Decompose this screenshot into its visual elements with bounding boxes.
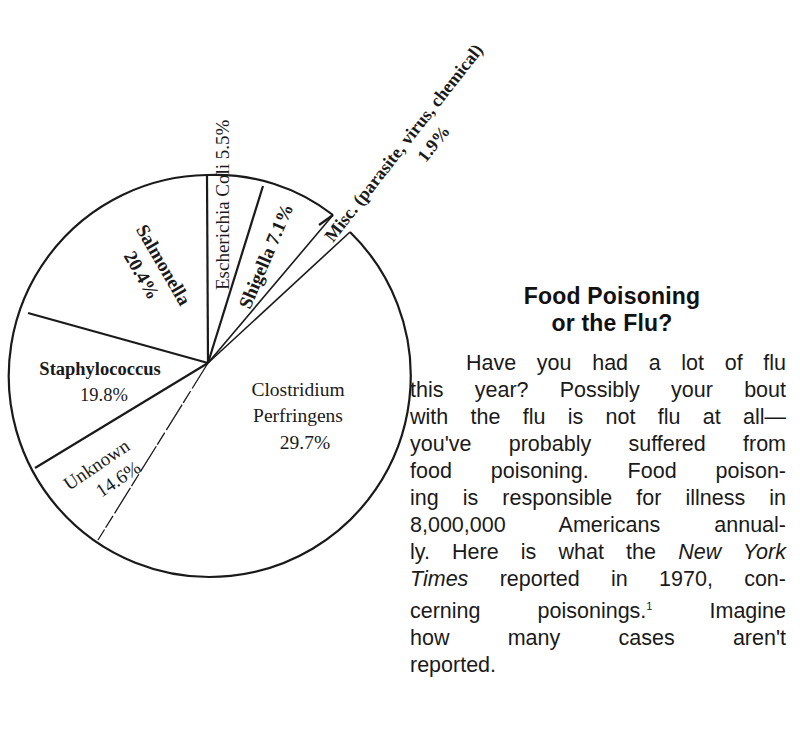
body-line: how many cases aren't [410,625,786,652]
headline-line-1: Food Poisoning [438,283,786,310]
body-line: 8,000,000 Americans annual- [410,512,786,539]
clostridium-pct: 29.7% [280,432,330,453]
staphylococcus-label: Staphylococcus [39,359,160,379]
body-line: food poisoning. Food poison- [410,458,786,485]
misc-label: Misc. (parasite, virus, chemical) [320,40,487,246]
clostridium-label-l1: Clostridium [251,379,344,400]
footnote-ref: 1 [646,600,652,612]
article-headline: Food Poisoning or the Flu? [438,283,786,337]
body-line: with the flu is not flu at all— [410,404,786,431]
publication-name: New York [678,540,786,564]
staphylococcus-pct: 19.8% [80,385,128,405]
article-body: Have you had a lot of flu this year? Pos… [410,350,786,679]
radius-salmonella-ecoli [207,176,208,363]
radius-staph-salmonella [28,313,208,363]
headline-line-2: or the Flu? [438,310,786,337]
body-text: ly. Here is what the [410,540,656,564]
body-text: cerning poisonings. [410,599,646,623]
ecoli-label: Escherichia Coli 5.5% [212,119,233,290]
body-line-mixed: Times reported in 1970, con- [410,566,786,593]
article: Food Poisoning or the Flu? Have you had … [410,283,786,679]
publication-name: Times [410,567,468,591]
body-line-mixed: ly. Here is what the New York [410,539,786,566]
body-text: Imagine [710,599,787,623]
body-line: ing is responsible for illness in [410,485,786,512]
clostridium-label-l2: Perfringens [253,405,343,426]
body-text: reported in 1970, con- [500,567,786,591]
body-line: Have you had a lot of flu [410,350,786,377]
body-line: this year? Possibly your bout [410,377,786,404]
body-line: reported. [410,652,786,679]
body-line: you've probably suffered from [410,431,786,458]
body-line-mixed: cerning poisonings.1 Imagine [410,593,786,625]
